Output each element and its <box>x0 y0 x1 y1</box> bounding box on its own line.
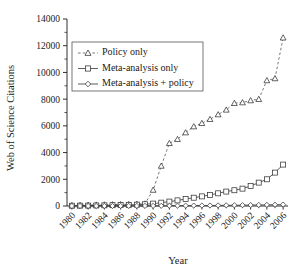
data-point-marker <box>183 130 189 135</box>
data-point-marker <box>191 195 196 200</box>
data-point-marker <box>248 98 254 103</box>
y-tick-label: 10000 <box>36 68 60 78</box>
x-tick-label: 1988 <box>122 210 143 231</box>
y-tick-label: 14000 <box>36 14 60 24</box>
y-tick-label: 6000 <box>41 121 60 131</box>
legend-label: Meta-analysis only <box>102 62 178 73</box>
y-tick-label: 0 <box>55 201 60 211</box>
x-tick-label: 1992 <box>154 210 175 231</box>
x-tick-label: 1980 <box>57 210 78 231</box>
x-tick-label: 1984 <box>89 210 110 231</box>
x-axis-title: Year <box>168 255 188 266</box>
x-tick-label: 2002 <box>236 210 257 231</box>
x-tick-label: 1982 <box>73 210 94 231</box>
data-point-marker <box>166 140 172 145</box>
data-point-marker <box>215 112 221 117</box>
data-point-marker <box>232 203 237 208</box>
data-point-marker <box>224 189 229 194</box>
data-point-marker <box>216 203 221 208</box>
data-point-marker <box>280 35 286 40</box>
y-tick-label: 2000 <box>41 175 60 185</box>
x-tick-label: 1994 <box>171 210 192 231</box>
data-point-marker <box>216 191 221 196</box>
data-point-marker <box>183 203 188 208</box>
data-point-marker <box>207 203 212 208</box>
data-point-marker <box>264 177 269 182</box>
data-point-marker <box>272 202 277 207</box>
data-point-marker <box>191 124 197 129</box>
y-axis-ticks <box>63 19 67 206</box>
data-point-marker <box>256 180 261 185</box>
data-point-marker <box>240 203 245 208</box>
data-point-marker <box>175 203 180 208</box>
x-tick-label: 1986 <box>106 210 127 231</box>
x-axis-tick-labels: 1980198219841986198819901992199419961998… <box>57 210 289 231</box>
data-point-marker <box>240 186 245 191</box>
series-meta-analysis-only <box>69 162 285 208</box>
data-point-marker <box>208 192 213 197</box>
data-point-marker <box>256 202 261 207</box>
data-point-marker <box>207 116 213 121</box>
legend-label: Policy only <box>102 46 148 57</box>
x-tick-label: 1996 <box>187 210 208 231</box>
data-point-marker <box>199 203 204 208</box>
chart-legend: Policy onlyMeta-analysis onlyMeta-analys… <box>72 42 203 91</box>
y-axis-tick-labels: 02000400060008000100001200014000 <box>36 14 60 211</box>
data-point-marker <box>199 120 205 125</box>
x-tick-label: 1990 <box>138 210 159 231</box>
data-point-marker <box>273 170 278 175</box>
data-point-marker <box>224 203 229 208</box>
data-point-marker <box>175 198 180 203</box>
data-point-marker <box>264 78 270 83</box>
y-tick-label: 12000 <box>36 41 60 51</box>
data-point-marker <box>150 187 156 192</box>
data-point-marker <box>248 202 253 207</box>
x-tick-label: 2004 <box>252 210 273 231</box>
y-tick-label: 8000 <box>41 95 60 105</box>
legend-marker-square <box>85 66 90 71</box>
chart-container: 02000400060008000100001200014000 1980198… <box>0 0 303 270</box>
data-point-marker <box>183 197 188 202</box>
data-point-marker <box>158 163 164 168</box>
x-tick-label: 2000 <box>219 210 240 231</box>
data-point-marker <box>191 203 196 208</box>
data-point-marker <box>199 194 204 199</box>
data-point-marker <box>281 162 286 167</box>
data-point-marker <box>232 188 237 193</box>
x-tick-label: 2006 <box>268 210 289 231</box>
legend-label: Meta-analysis + policy <box>102 77 194 88</box>
y-axis-title: Web of Science Citations <box>5 65 16 171</box>
y-tick-label: 4000 <box>41 148 60 158</box>
data-point-marker <box>256 96 262 101</box>
x-tick-label: 1998 <box>203 210 224 231</box>
data-point-marker <box>264 202 269 207</box>
citations-line-chart: 02000400060008000100001200014000 1980198… <box>0 0 303 270</box>
data-point-marker <box>272 76 278 81</box>
data-point-marker <box>248 183 253 188</box>
